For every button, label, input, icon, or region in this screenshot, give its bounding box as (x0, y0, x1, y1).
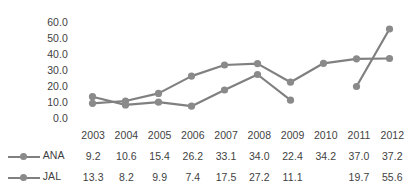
value-ana-2006: 26.2 (176, 145, 209, 166)
line-chart: 60.0 50.0 40.0 30.0 20.0 10.0 0.0 2003 2… (0, 0, 409, 195)
data-point-jal-2011 (353, 83, 360, 90)
x-tick-label-2004: 2004 (110, 124, 143, 145)
value-ana-2003: 9.2 (77, 145, 110, 166)
value-ana-2010: 34.2 (309, 145, 342, 166)
data-point-ana-2010 (320, 60, 327, 67)
value-ana-2008: 34.0 (243, 145, 276, 166)
x-tick-label-2008: 2008 (243, 124, 276, 145)
data-point-ana-2008 (254, 60, 261, 67)
x-tick-label-2003: 2003 (77, 124, 110, 145)
series-canvas (0, 0, 409, 128)
table-row-jal: JAL 13.3 8.2 9.9 7.4 17.5 27.2 11.1 19.7… (0, 166, 409, 187)
data-point-ana-2006 (188, 73, 195, 80)
data-point-ana-2009 (287, 79, 294, 86)
data-point-ana-2007 (221, 61, 228, 68)
x-tick-label-2006: 2006 (176, 124, 209, 145)
x-tick-label-2011: 2011 (342, 124, 375, 145)
data-point-jal-2006 (188, 103, 195, 110)
data-point-jal-2004 (122, 101, 129, 108)
legend-item-jal[interactable]: JAL (0, 166, 77, 187)
value-jal-2012: 55.6 (376, 166, 409, 187)
value-jal-2005: 9.9 (143, 166, 176, 187)
value-jal-2004: 8.2 (110, 166, 143, 187)
data-point-ana-2005 (155, 90, 162, 97)
value-ana-2004: 10.6 (110, 145, 143, 166)
value-jal-2011: 19.7 (342, 166, 375, 187)
data-table-grid: 2003 2004 2005 2006 2007 2008 2009 2010 … (0, 124, 409, 187)
plot-area: 60.0 50.0 40.0 30.0 20.0 10.0 0.0 (0, 0, 409, 128)
value-ana-2005: 15.4 (143, 145, 176, 166)
value-jal-2003: 13.3 (77, 166, 110, 187)
table-row-ana: ANA 9.2 10.6 15.4 26.2 33.1 34.0 22.4 34… (0, 145, 409, 166)
legend-marker-line-icon (8, 152, 40, 162)
data-point-ana-2011 (353, 55, 360, 62)
data-point-jal-2003 (89, 93, 96, 100)
series-line-ana (93, 59, 390, 104)
x-tick-label-2007: 2007 (209, 124, 242, 145)
legend-item-ana[interactable]: ANA (0, 145, 77, 166)
data-point-jal-2007 (221, 86, 228, 93)
value-ana-2011: 37.0 (342, 145, 375, 166)
table-corner-cell (0, 124, 77, 145)
data-point-jal-2005 (155, 99, 162, 106)
data-point-jal-2008 (254, 71, 261, 78)
value-ana-2009: 22.4 (276, 145, 309, 166)
x-tick-label-2005: 2005 (143, 124, 176, 145)
data-point-ana-2012 (386, 55, 393, 62)
data-point-jal-2012 (386, 25, 393, 32)
x-tick-label-2012: 2012 (376, 124, 409, 145)
data-point-jal-2009 (287, 97, 294, 104)
data-table: 2003 2004 2005 2006 2007 2008 2009 2010 … (0, 124, 409, 195)
x-tick-label-2010: 2010 (309, 124, 342, 145)
x-tick-label-2009: 2009 (276, 124, 309, 145)
value-jal-2006: 7.4 (176, 166, 209, 187)
table-header-row: 2003 2004 2005 2006 2007 2008 2009 2010 … (0, 124, 409, 145)
data-point-ana-2003 (89, 100, 96, 107)
legend-label-jal: JAL (43, 170, 69, 182)
value-jal-2007: 17.5 (209, 166, 242, 187)
value-jal-2009: 11.1 (276, 166, 309, 187)
legend-label-ana: ANA (43, 149, 69, 161)
value-jal-2010 (309, 166, 342, 187)
value-ana-2007: 33.1 (209, 145, 242, 166)
value-jal-2008: 27.2 (243, 166, 276, 187)
value-ana-2012: 37.2 (376, 145, 409, 166)
legend-marker-line-icon (8, 173, 40, 183)
